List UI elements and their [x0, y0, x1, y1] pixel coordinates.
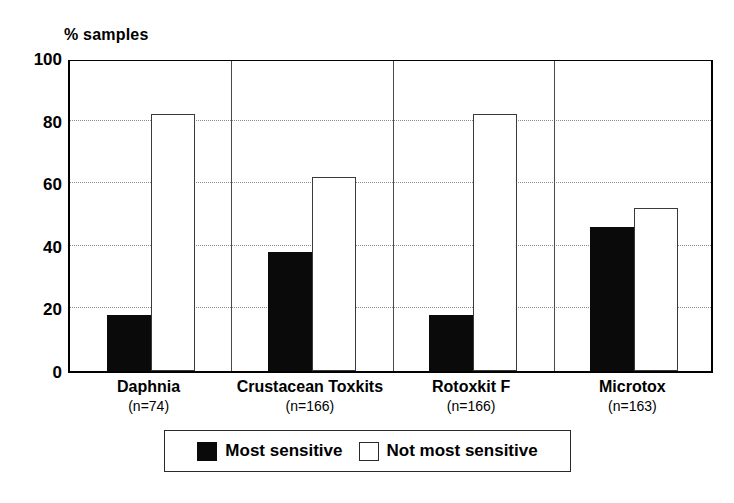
category-sample-count: (n=74): [117, 397, 180, 415]
x-axis-label-group-1: Daphnia(n=74): [117, 377, 180, 415]
x-axis-label-group-3: Rotoxkit F(n=166): [432, 377, 510, 415]
bar-most-sensitive-rotoxkit-f: [429, 315, 473, 371]
plot-area: [68, 60, 713, 373]
category-name: Daphnia: [117, 377, 180, 397]
category-sample-count: (n=163): [599, 397, 666, 415]
group-separator-2: [393, 61, 394, 371]
category-sample-count: (n=166): [237, 397, 383, 415]
y-axis-tick-0: 0: [14, 363, 62, 383]
bar-most-sensitive-crustacean-toxkits: [268, 252, 312, 371]
x-axis-label-group-2: Crustacean Toxkits(n=166): [237, 377, 383, 415]
y-axis-tick-100: 100: [14, 50, 62, 70]
y-axis-tick-60: 60: [14, 175, 62, 195]
y-axis-tick-labels: 100806040200: [8, 60, 62, 373]
legend-swatch-dark-icon: [197, 442, 217, 461]
bar-not-most-sensitive-microtox: [634, 208, 678, 371]
bar-most-sensitive-daphnia: [107, 315, 151, 371]
x-axis-label-group-4: Microtox(n=163): [599, 377, 666, 415]
x-axis-category-labels: Daphnia(n=74)Crustacean Toxkits(n=166)Ro…: [68, 377, 713, 423]
legend-label: Most sensitive: [225, 441, 342, 461]
bar-not-most-sensitive-rotoxkit-f: [473, 114, 517, 371]
y-axis-tick-20: 20: [14, 300, 62, 320]
y-axis-tick-40: 40: [14, 238, 62, 258]
legend-swatch-light-icon: [359, 442, 379, 461]
legend-label: Not most sensitive: [387, 441, 538, 461]
bar-chart: % samples 100806040200 Daphnia(n=74)Crus…: [0, 0, 734, 503]
category-name: Rotoxkit F: [432, 377, 510, 397]
y-axis-tick-80: 80: [14, 113, 62, 133]
category-name: Crustacean Toxkits: [237, 377, 383, 397]
bar-not-most-sensitive-crustacean-toxkits: [312, 177, 356, 371]
legend-item-1: Most sensitive: [197, 441, 342, 461]
bar-most-sensitive-microtox: [590, 227, 634, 371]
chart-legend: Most sensitiveNot most sensitive: [164, 430, 571, 472]
group-separator-3: [554, 61, 555, 371]
group-separator-1: [231, 61, 232, 371]
legend-item-2: Not most sensitive: [359, 441, 538, 461]
category-name: Microtox: [599, 377, 666, 397]
category-sample-count: (n=166): [432, 397, 510, 415]
y-axis-title: % samples: [64, 26, 149, 44]
bar-not-most-sensitive-daphnia: [151, 114, 195, 371]
